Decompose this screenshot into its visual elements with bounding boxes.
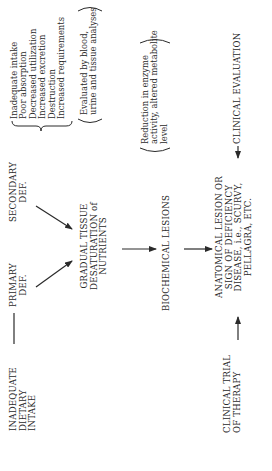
secondary-to-tissue-arrow [36,206,72,229]
node-secondary-def: SECONDARY DEF. [9,157,28,227]
paren-open-icon [140,148,170,152]
node-anatomical-lesion: ANATOMICAL LESION OR SIGN OF DEFICIENCY … [215,157,253,317]
node-gradual-tissue-desaturation: GRADUAL TISSUE DESATURATION of NUTRIENTS [80,191,109,301]
paren-open-icon [78,119,102,123]
primary-to-tissue-arrow [36,261,72,287]
node-secondary-causes-list: Inadequate intake Poor absorption Decrea… [10,17,66,119]
node-clinical-evaluation: CLINICAL EVALUATION [233,33,243,144]
brace-icon [12,121,72,131]
node-biochemical-lesions: BIOCHEMICAL LESIONS [162,195,172,311]
node-tissue-evaluation-note: Evaluated by blood, urine and tissue ana… [80,8,99,116]
node-biochemical-note: Reduction in enzyme activity, altered me… [141,30,169,144]
node-primary-def: PRIMARY DEF. [9,257,28,313]
node-inadequate-dietary-intake: INADEQUATE DIETARY INTAKE [9,367,38,431]
node-clinical-trial-of-therapy: CLINICAL TRIAL OF THERAPY [223,355,242,433]
flowchart-diagram: INADEQUATE DIETARY INTAKE PRIMARY DEF. S… [0,0,272,471]
